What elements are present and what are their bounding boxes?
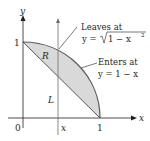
line-l-arrow-icon [56, 18, 60, 23]
leaves-eq-prefix: y = [81, 34, 97, 44]
y-tick-1: 1 [14, 38, 20, 48]
y-axis-label: y [19, 6, 26, 16]
leaves-title: Leaves at [81, 22, 123, 32]
x-axis-arrow-icon [131, 116, 137, 121]
enters-title: Enters at [98, 57, 138, 67]
region-diagram: y x 1 0 x 1 R L Leaves at y = 1 − x 2 En… [0, 0, 150, 141]
enters-eq: y = 1 − x [97, 69, 138, 79]
leaves-eq-radicand: 1 − x [108, 34, 131, 44]
region-label: R [41, 51, 49, 61]
x-axis-label: x [139, 113, 144, 123]
origin-label: 0 [15, 123, 21, 133]
x-tick-1: 1 [97, 123, 103, 133]
enters-leader [81, 63, 97, 68]
x-marker-label: x [61, 123, 66, 133]
leaves-leader [59, 27, 77, 49]
leaves-eq-exp: 2 [141, 32, 145, 38]
line-label: L [47, 95, 54, 105]
